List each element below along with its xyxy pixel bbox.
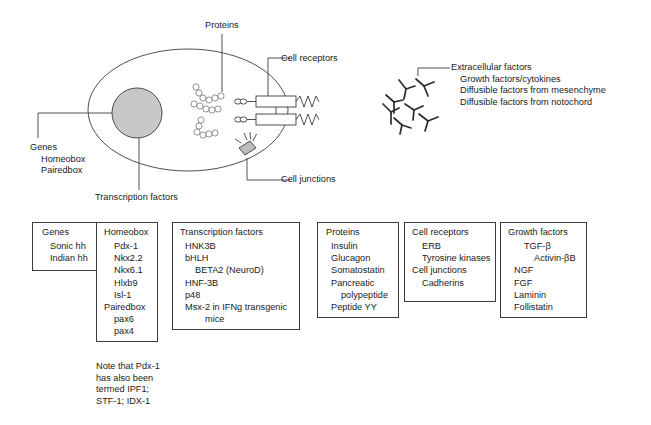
list-subheading: Cell junctions	[412, 264, 490, 276]
nucleus-shape	[112, 88, 162, 138]
box-transcription-factors-list: HNK3B bHLH BETA2 (NeuroD) HNF-3B p48 Msx…	[185, 240, 287, 325]
list-item: BETA2 (NeuroD)	[185, 264, 287, 276]
cell-receptors-label-text: Cell receptors	[281, 53, 338, 65]
list-item: Activin-βB	[514, 252, 576, 264]
list-item: Msx-2 in IFNg transgenic	[185, 301, 287, 313]
ligand-bead	[240, 99, 247, 104]
transcription-factors-label-text: Transcription factors	[95, 192, 178, 204]
list-item: Glucagon	[331, 252, 388, 264]
cell-junctions-callout-label: Cell junctions	[281, 174, 336, 186]
extracellular-factor-molecules	[383, 79, 438, 134]
cell-junctions-label-text: Cell junctions	[281, 174, 336, 186]
list-item: Pdx-1	[104, 240, 145, 252]
box-growth-factors-list: TGF-β Activin-βB NGF FGF Laminin Follist…	[514, 240, 576, 313]
list-item: Nkx6.1	[104, 264, 145, 276]
list-item: p48	[185, 289, 287, 301]
list-item: NGF	[514, 264, 576, 276]
list-item: Tyrosine kinases	[412, 252, 490, 264]
list-item: Peptide YY	[331, 301, 388, 313]
box-homeobox-title: Homeobox	[104, 226, 148, 238]
list-item: Follistatin	[514, 301, 576, 313]
box-transcription-factors-title: Transcription factors	[180, 226, 263, 238]
genes-callout-item: Pairedbox	[30, 165, 85, 177]
list-subheading: Pairedbox	[104, 301, 145, 313]
list-item: Indian hh	[50, 252, 88, 264]
box-genes-list: Sonic hh Indian hh	[50, 240, 88, 264]
transcription-factors-callout-label: Transcription factors	[95, 192, 178, 204]
box-genes-title: Genes	[42, 226, 69, 238]
genes-callout-block: Genes Homeobox Pairedbox	[30, 142, 85, 177]
list-item: mice	[185, 313, 287, 325]
list-item: Nkx2.2	[104, 252, 145, 264]
box-growth-factors-title: Growth factors	[508, 226, 568, 238]
cell-receptor-lower-tail	[296, 114, 319, 125]
list-item: polypeptide	[331, 289, 388, 301]
list-item: pax4	[104, 325, 145, 337]
extracellular-factors-item: Diffusible factors from notochord	[451, 97, 606, 109]
proteins-label-text: Proteins	[205, 20, 239, 32]
extracellular-factors-callout-block: Extracellular factors Growth factors/cyt…	[451, 62, 606, 108]
box-cell-receptors-title: Cell receptors	[412, 226, 469, 238]
list-item: bHLH	[185, 252, 287, 264]
cell-receptor-upper-body	[256, 96, 296, 107]
list-item: HNF-3B	[185, 277, 287, 289]
box-cell-receptors-list: ERB Tyrosine kinases Cell junctions Cadh…	[412, 240, 490, 289]
list-item: ERB	[412, 240, 490, 252]
genes-callout-item: Homeobox	[30, 154, 85, 166]
list-item: Insulin	[331, 240, 388, 252]
cell-receptor-upper-tail	[296, 96, 319, 107]
extracellular-factors-item: Diffusible factors from mesenchyme	[451, 85, 606, 97]
extracellular-factors-title: Extracellular factors	[451, 62, 606, 74]
extracellular-factors-leader-line	[418, 68, 450, 76]
genes-callout-title: Genes	[30, 142, 85, 154]
cell-receptor-lower-body	[256, 114, 296, 125]
extracellular-factors-item: Growth factors/cytokines	[451, 74, 606, 86]
note-line: has also been	[96, 373, 160, 385]
cell-receptors-callout-label: Cell receptors	[281, 53, 338, 65]
ligand-bead	[240, 117, 247, 122]
genes-leader-line	[38, 113, 112, 138]
cell-junction-plaque	[235, 132, 257, 155]
protein-bead-chains	[191, 84, 224, 138]
box-proteins-list: Insulin Glucagon Somatostatin Pancreatic…	[331, 240, 388, 313]
list-item: TGF-β	[514, 240, 576, 252]
list-item: Hlxb9	[104, 277, 145, 289]
proteins-callout-label: Proteins	[205, 20, 239, 32]
list-item: Pancreatic	[331, 277, 388, 289]
list-item: Somatostatin	[331, 264, 388, 276]
list-item: Sonic hh	[50, 240, 88, 252]
list-item: pax6	[104, 313, 145, 325]
list-item: FGF	[514, 277, 576, 289]
box-homeobox-list: Pdx-1 Nkx2.2 Nkx6.1 Hlxb9 Isl-1 Pairedbo…	[104, 240, 145, 338]
list-item: Cadherins	[412, 277, 490, 289]
note-line: Note that Pdx-1	[96, 361, 160, 373]
pdx1-note: Note that Pdx-1 has also been termed IPF…	[96, 361, 160, 407]
note-line: STF-1; IDX-1	[96, 396, 160, 408]
list-item: Isl-1	[104, 289, 145, 301]
signalling-diagram-figure: Proteins Cell receptors Cell junctions T…	[0, 0, 651, 425]
note-line: termed IPF1;	[96, 384, 160, 396]
list-item: HNK3B	[185, 240, 287, 252]
list-item: Laminin	[514, 289, 576, 301]
box-proteins-title: Proteins	[326, 226, 360, 238]
